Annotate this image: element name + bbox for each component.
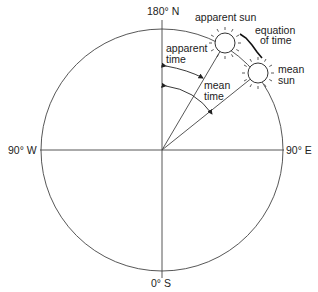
label-mean-sun-line2: sun: [278, 75, 295, 86]
label-west: 90° W: [8, 145, 37, 156]
equation-of-time-brace: [240, 34, 262, 58]
label-mean-time-line2: time: [204, 91, 224, 102]
apparent-time-arc: [166, 66, 203, 78]
label-equation-line2: of time: [260, 35, 292, 46]
label-north: 180° N: [147, 6, 179, 17]
label-apparent-sun: apparent sun: [195, 12, 256, 23]
label-east: 90° E: [286, 145, 312, 156]
label-apparent-time-line2: time: [166, 54, 186, 65]
mean-sun-icon: [242, 57, 274, 89]
label-south: 0° S: [151, 278, 171, 289]
